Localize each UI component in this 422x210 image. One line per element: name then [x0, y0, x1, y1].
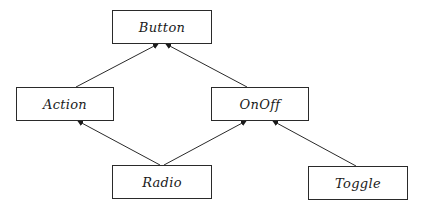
edge-radio-to-action	[78, 121, 160, 165]
node-onoff: OnOff	[211, 87, 309, 121]
edge-action-to-button	[76, 44, 158, 87]
node-label: OnOff	[240, 97, 281, 112]
edge-radio-to-onoff	[164, 121, 246, 165]
edge-toggle-to-onoff	[273, 121, 356, 166]
node-radio: Radio	[112, 165, 212, 199]
node-label: Button	[139, 20, 185, 35]
node-label: Radio	[142, 175, 182, 190]
node-label: Toggle	[335, 176, 381, 191]
class-hierarchy-diagram: Button Action OnOff Radio Toggle	[0, 0, 422, 210]
node-button: Button	[112, 10, 212, 44]
node-label: Action	[43, 97, 87, 112]
node-toggle: Toggle	[308, 166, 408, 200]
edge-onoff-to-button	[166, 44, 247, 87]
node-action: Action	[16, 87, 114, 121]
